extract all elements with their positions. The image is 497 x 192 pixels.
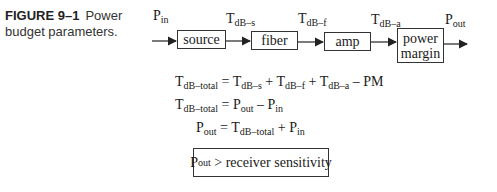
receiver-sensitivity-condition: Pout > receiver sensitivity (193, 148, 329, 177)
equation-p-out: Pout = TdB–total + Pin (196, 120, 305, 137)
block-power-margin: power margin (397, 28, 444, 63)
label-t-amp: TdB–a (371, 12, 401, 29)
equation-total-sum: TdB–total = TdB–s + TdB–f + TdB–a – PM (175, 74, 384, 91)
block-power-margin-line2: margin (401, 46, 440, 61)
block-amp: amp (324, 32, 371, 51)
label-p-out: Pout (445, 12, 466, 29)
label-p-in: Pin (153, 8, 169, 25)
block-source: source (177, 30, 226, 49)
label-t-source: TdB–s (226, 11, 255, 28)
block-fiber: fiber (251, 31, 298, 50)
block-power-margin-line1: power (403, 31, 438, 46)
equation-total-diff: TdB–total = Pout – Pin (175, 97, 283, 114)
label-t-fiber: TdB–f (298, 11, 327, 28)
